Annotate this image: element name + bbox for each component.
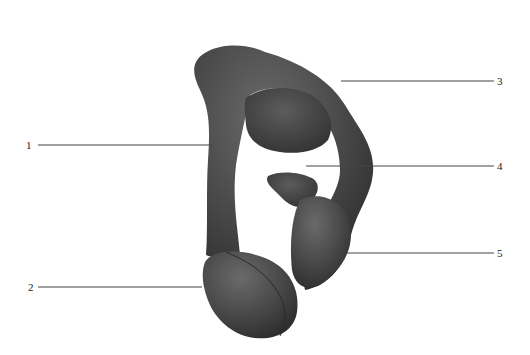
label-1: 1 — [26, 139, 32, 151]
model-lower-right — [291, 196, 351, 288]
label-5: 5 — [497, 247, 503, 259]
label-3: 3 — [497, 75, 503, 87]
anatomy-figure: 1 2 3 4 5 — [0, 0, 530, 355]
anatomical-model — [194, 45, 373, 338]
label-2: 2 — [28, 281, 34, 293]
label-4: 4 — [497, 160, 503, 172]
